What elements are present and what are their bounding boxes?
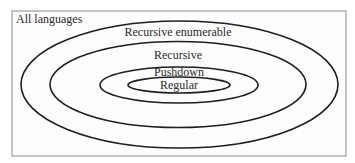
- language-hierarchy-diagram: All languages Recursive enumerable Recur…: [0, 0, 355, 163]
- recursive-label: Recursive: [154, 48, 202, 62]
- regular-label: Regular: [160, 78, 198, 92]
- all-languages-label: All languages: [16, 12, 83, 26]
- recursive-enumerable-label: Recursive enumerable: [125, 25, 232, 39]
